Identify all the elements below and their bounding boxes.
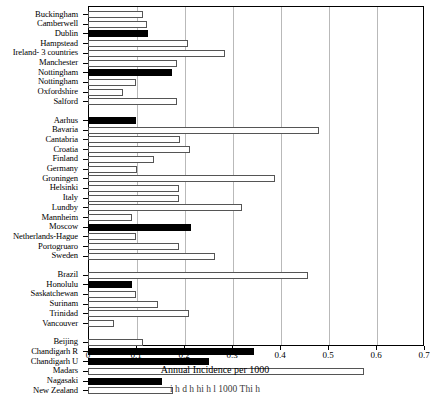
category-tick: [83, 304, 88, 305]
bar-dublin: [88, 30, 148, 37]
category-tick: [83, 149, 88, 150]
category-tick: [83, 217, 88, 218]
category-tick: [83, 169, 88, 170]
bar-manchester: [88, 60, 177, 67]
bar-bavaria: [88, 127, 319, 134]
category-label: Oxfordshire: [38, 87, 78, 96]
category-label: Dublin: [55, 29, 78, 38]
category-label: Netherlands-Hague: [13, 232, 78, 241]
category-label: Finland: [52, 154, 78, 163]
category-label: Nottingham: [38, 68, 78, 77]
category-label: Aarhus: [54, 116, 78, 125]
category-label: Saskatchewan: [31, 289, 78, 298]
category-tick: [83, 43, 88, 44]
figure-caption-partial: i h d h hi h l 1000 Thi h: [0, 384, 430, 392]
x-tick-label: 0.4: [274, 350, 285, 360]
category-tick: [83, 342, 88, 343]
category-label: Vancouver: [42, 319, 78, 328]
category-axis: BuckinghamCamberwellDublinHampsteadIrela…: [0, 6, 86, 346]
bar-portogruaro: [88, 243, 179, 250]
bar-italy: [88, 195, 179, 202]
category-label: Surinam: [50, 299, 78, 308]
category-label: Cantabria: [45, 135, 78, 144]
category-tick: [83, 53, 88, 54]
category-tick: [83, 24, 88, 25]
category-tick: [83, 188, 88, 189]
x-axis-label: Annual Incidence per 1000: [0, 364, 430, 375]
x-tick-label: 0.5: [322, 350, 333, 360]
category-tick: [83, 227, 88, 228]
category-tick: [83, 63, 88, 64]
bar-vancouver: [88, 320, 114, 327]
category-tick: [83, 284, 88, 285]
category-tick: [83, 178, 88, 179]
category-label: Trinidad: [50, 309, 79, 318]
bar-oxfordshire: [88, 89, 123, 96]
category-tick: [83, 72, 88, 73]
category-label: Lundby: [52, 203, 78, 212]
category-tick: [83, 14, 88, 15]
bar-camberwell: [88, 21, 147, 28]
category-tick: [83, 92, 88, 93]
bar-brazil: [88, 272, 308, 279]
bar-croatia: [88, 146, 190, 153]
bar-nottingham: [88, 69, 172, 76]
category-label: Groningen: [42, 174, 78, 183]
bar-lundby: [88, 204, 242, 211]
bar-hampstead: [88, 40, 188, 47]
category-tick: [83, 101, 88, 102]
bar-buckingham: [88, 11, 143, 18]
category-label: Italy: [63, 193, 78, 202]
category-tick: [83, 313, 88, 314]
category-tick: [83, 139, 88, 140]
category-tick: [83, 294, 88, 295]
bar-saskatchewan: [88, 291, 136, 298]
category-tick: [83, 130, 88, 131]
bar-aarhus: [88, 117, 136, 124]
bar-ireland-3-countries: [88, 50, 225, 57]
category-label: Ireland- 3 countries: [13, 48, 78, 57]
category-label: Helsinki: [50, 183, 78, 192]
category-tick: [83, 236, 88, 237]
category-label: Germany: [47, 164, 78, 173]
category-label: Nottingham: [38, 77, 78, 86]
category-tick: [83, 381, 88, 382]
category-label: Brazil: [58, 270, 78, 279]
category-label: Honolulu: [46, 280, 78, 289]
category-label: Bavaria: [52, 125, 78, 134]
category-label: Buckingham: [35, 10, 78, 19]
x-tick-label: 0.2: [178, 350, 189, 360]
bar-sweden: [88, 253, 215, 260]
category-tick: [83, 159, 88, 160]
bar-netherlands-hague: [88, 233, 136, 240]
x-tick-label: 0.7: [418, 350, 429, 360]
bar-honolulu: [88, 281, 132, 288]
bar-helsinki: [88, 185, 179, 192]
category-tick: [83, 275, 88, 276]
bar-moscow: [88, 224, 191, 231]
category-label: Portogruaro: [38, 242, 78, 251]
x-tick-label: 0: [86, 350, 91, 360]
category-label: Croatia: [53, 145, 78, 154]
category-label: Sweden: [51, 251, 78, 260]
bar-beijing: [88, 339, 143, 346]
bar-groningen: [88, 175, 275, 182]
bar-nottingham: [88, 79, 136, 86]
category-label: Moscow: [49, 222, 78, 231]
bar-surinam: [88, 301, 158, 308]
bar-mannheim: [88, 214, 132, 221]
category-tick: [83, 256, 88, 257]
category-label: Salford: [53, 97, 78, 106]
category-label: Manchester: [39, 58, 78, 67]
category-label: Camberwell: [37, 19, 78, 28]
bar-finland: [88, 156, 154, 163]
category-tick: [83, 120, 88, 121]
bar-salford: [88, 98, 177, 105]
bar-germany: [88, 166, 137, 173]
x-axis: 00.10.20.30.40.50.60.7: [88, 346, 424, 362]
bar-cantabria: [88, 136, 180, 143]
x-tick-label: 0.3: [226, 350, 237, 360]
x-tick-label: 0.1: [130, 350, 141, 360]
category-label: Hampstead: [40, 39, 78, 48]
